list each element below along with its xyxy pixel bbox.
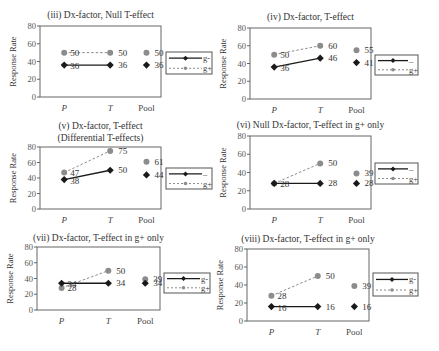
x-tick-label: P xyxy=(58,316,65,326)
gminus-marker xyxy=(351,303,358,310)
plot-frame xyxy=(37,247,160,310)
y-axis-label: Response Rate xyxy=(218,38,228,89)
gminus-value-label: 50 xyxy=(118,165,128,175)
gminus-value-label: 36 xyxy=(118,60,128,70)
gminus-marker xyxy=(314,303,321,310)
plot-frame xyxy=(250,136,371,209)
x-tick-label: Pool xyxy=(138,215,155,225)
gplus-marker xyxy=(315,273,321,279)
gplus-marker xyxy=(143,159,149,165)
legend: –g+ xyxy=(375,163,418,184)
gminus-value-label: 38 xyxy=(70,176,80,186)
plot-frame xyxy=(40,26,161,97)
plot-frame xyxy=(40,147,161,209)
gminus-marker xyxy=(61,176,68,183)
gminus-value-label: 46 xyxy=(328,53,338,63)
x-tick-label: T xyxy=(108,103,114,113)
gplus-value-label: 28 xyxy=(277,291,287,301)
y-tick-label: 0 xyxy=(32,204,36,214)
y-tick-label: 80 xyxy=(238,131,247,141)
panel-title: (v) Dx-factor, T-effect xyxy=(58,121,142,132)
panel-title: (vi) Null Dx-factor, T-effect in g+ only xyxy=(237,120,385,131)
panel-title: (iv) Dx-factor, T-effect xyxy=(267,12,354,23)
panel-subtitle: (Differential T-effects) xyxy=(58,133,144,144)
gplus-pool-label: 39 xyxy=(364,168,374,178)
gminus-value-label: 28 xyxy=(328,178,338,188)
gplus-marker xyxy=(353,47,359,53)
gplus-value-label: 50 xyxy=(70,48,80,58)
y-tick-label: 60 xyxy=(28,39,37,49)
gminus-value-label: 34 xyxy=(116,278,126,288)
panel-4: (vi) Null Dx-factor, T-effect in g+ only… xyxy=(218,120,418,225)
x-tick-label: P xyxy=(270,215,277,225)
y-tick-label: 40 xyxy=(235,280,244,290)
x-tick-label: Pool xyxy=(137,316,154,326)
y-axis-label: Response Rate xyxy=(5,253,15,304)
gplus-marker xyxy=(143,50,149,56)
gminus-pool-label: 36 xyxy=(154,60,164,70)
panel-5: (vii) Dx-factor, T-effect in g+ only0204… xyxy=(5,233,210,326)
x-tick-label: Pool xyxy=(138,103,155,113)
gplus-value-label: 50 xyxy=(326,271,336,281)
plot-frame xyxy=(250,28,371,99)
y-tick-label: 80 xyxy=(28,21,37,31)
legend-gplus-marker xyxy=(182,286,186,290)
gplus-marker xyxy=(105,268,111,274)
y-tick-label: 80 xyxy=(238,23,247,33)
gminus-pool-label: 34 xyxy=(153,278,163,288)
gminus-marker xyxy=(61,61,68,68)
gminus-marker xyxy=(105,280,112,287)
gminus-value-label: 28 xyxy=(280,179,290,189)
gplus-pool-label: 39 xyxy=(362,281,372,291)
y-tick-label: 80 xyxy=(28,142,37,152)
x-tick-label: Pool xyxy=(348,215,365,225)
gminus-marker xyxy=(271,63,278,70)
panel-2: (iv) Dx-factor, T-effect020406080Respons… xyxy=(218,12,418,115)
legend-gplus-marker xyxy=(390,288,394,292)
gminus-pool-label: 28 xyxy=(364,178,374,188)
x-tick-label: T xyxy=(106,316,112,326)
x-tick-label: T xyxy=(315,327,321,337)
panel-title: (vii) Dx-factor, T-effect in g+ only xyxy=(33,233,164,244)
gminus-marker xyxy=(271,180,278,187)
y-tick-label: 40 xyxy=(238,168,247,178)
legend-gplus-label: g+ xyxy=(409,285,418,295)
y-tick-label: 0 xyxy=(242,204,246,214)
gminus-value-label: 16 xyxy=(326,302,336,312)
gminus-value-label: 36 xyxy=(70,61,80,71)
legend: g-g+ xyxy=(166,52,212,74)
gplus-value-label: 50 xyxy=(328,158,338,168)
gminus-marker xyxy=(317,55,324,62)
gplus-pool-label: 61 xyxy=(154,157,163,167)
gplus-value-label: 50 xyxy=(280,50,290,60)
gplus-marker xyxy=(353,170,359,176)
y-axis-label: Response Rate xyxy=(8,36,18,87)
x-tick-label: Pool xyxy=(346,327,363,337)
y-tick-label: 20 xyxy=(235,298,244,308)
x-tick-label: P xyxy=(60,103,67,113)
y-tick-label: 40 xyxy=(25,274,34,284)
gminus-marker xyxy=(317,180,324,187)
legend: g-g+ xyxy=(164,273,210,293)
gminus-pool-label: 44 xyxy=(154,170,164,180)
panel-3: (v) Dx-factor, T-effect(Differential T-e… xyxy=(8,121,212,225)
gminus-pool-label: 16 xyxy=(362,302,372,312)
gplus-marker xyxy=(351,283,357,289)
legend-gplus-marker xyxy=(184,182,188,186)
gplus-marker xyxy=(107,50,113,56)
panel-title: (iii) Dx-factor, Null T-effect xyxy=(47,10,154,21)
legend-gplus-marker xyxy=(391,177,395,181)
gminus-marker xyxy=(143,61,150,68)
y-tick-label: 60 xyxy=(235,262,244,272)
x-tick-label: T xyxy=(108,215,114,225)
gminus-marker xyxy=(107,167,114,174)
gplus-marker xyxy=(271,52,277,58)
y-axis-label: Response Rate xyxy=(8,153,18,204)
y-tick-label: 20 xyxy=(28,74,37,84)
y-tick-label: 40 xyxy=(238,59,247,69)
gplus-marker xyxy=(107,148,113,154)
legend-gminus-label: – xyxy=(202,169,208,179)
y-tick-label: 20 xyxy=(238,186,247,196)
x-tick-label: P xyxy=(268,327,275,337)
y-tick-label: 0 xyxy=(239,316,243,326)
